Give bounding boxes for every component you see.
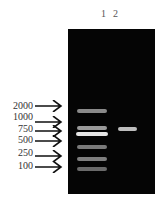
size-label: 250 [18,148,33,158]
lane-label-2: 2 [113,8,118,20]
sample-band [118,127,137,131]
arrow-right-icon [35,100,63,112]
arrow-right-icon [35,161,63,173]
size-label: 500 [18,135,33,145]
size-label: 750 [18,124,33,134]
ladder-band [77,126,107,130]
size-label: 1000 [13,112,33,122]
gel-image [68,29,155,194]
size-label: 100 [18,161,33,171]
lane-label-1: 1 [101,8,106,20]
ladder-band [77,167,107,171]
ladder-band [77,109,107,113]
arrow-right-icon [35,135,63,147]
ladder-band [77,145,107,149]
size-label: 2000 [13,101,33,111]
ladder-band [77,157,107,161]
ladder-band [76,132,108,136]
